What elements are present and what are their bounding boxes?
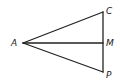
segment-ap (23, 43, 103, 72)
label-p: P (106, 70, 112, 80)
label-a: A (10, 38, 17, 48)
geometry-diagram: A C M P (0, 0, 120, 81)
triangle-figure: A C M P (0, 0, 120, 81)
label-m: M (106, 38, 114, 48)
label-c: C (106, 6, 113, 16)
segments (23, 12, 103, 72)
segment-ac (23, 12, 103, 43)
